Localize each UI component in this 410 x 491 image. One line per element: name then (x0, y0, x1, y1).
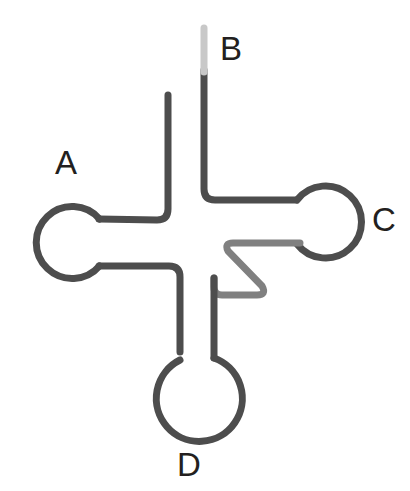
stem-A-upper (99, 95, 168, 220)
loop-C-circle (297, 186, 361, 258)
arm-label-a: A (55, 146, 77, 179)
stem-B-right-dark (204, 70, 296, 200)
loop-A-circle (36, 207, 99, 279)
arm-label-c: C (372, 203, 396, 236)
trna-diagram-svg (0, 0, 410, 491)
arm-C-group (297, 186, 361, 258)
trna-cloverleaf-figure: A B C D (0, 0, 410, 491)
arm-D-group (156, 278, 242, 441)
arm-A-group (36, 95, 180, 352)
arm-B-group (204, 28, 296, 200)
stem-A-lower (99, 266, 180, 352)
loop-D-circle (156, 358, 242, 441)
arm-label-b: B (220, 32, 242, 65)
variable-loop-zigzag (214, 243, 300, 295)
variable-loop-group (214, 243, 300, 295)
arm-label-d: D (177, 448, 201, 481)
